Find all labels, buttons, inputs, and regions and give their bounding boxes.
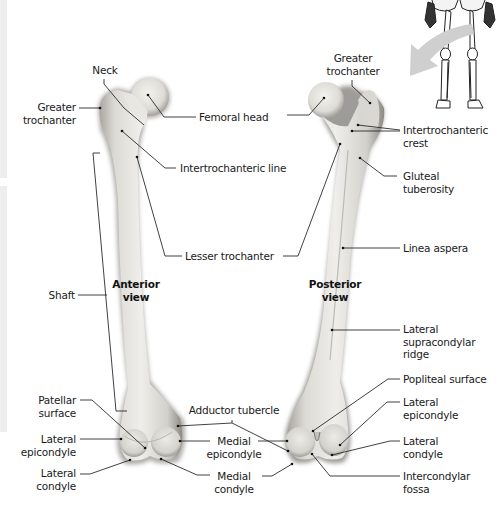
label-neck: Neck [90, 64, 120, 77]
posterior-femur [285, 82, 384, 463]
label-line: fossa [403, 483, 470, 496]
anterior-view-line1: Anterior [110, 278, 162, 291]
label-line: tuberosity [403, 183, 454, 196]
label-lateral-condyle-posterior: Lateral condyle [403, 435, 443, 460]
label-shaft: Shaft [30, 289, 75, 302]
label-line: surface [20, 407, 76, 420]
label-line: Intertrochanteric [403, 124, 488, 137]
label-line: Medial [204, 435, 264, 448]
label-lateral-epicondyle-posterior: Lateral epicondyle [403, 396, 458, 421]
label-line: condyle [208, 483, 260, 496]
label-line: epicondyle [204, 448, 264, 461]
label-line: Popliteal surface [403, 373, 487, 386]
label-line: crest [403, 137, 488, 150]
label-line: Intertrochanteric line [180, 162, 286, 175]
label-greater-trochanter-anterior: Greater trochanter [16, 101, 76, 126]
label-line: Lateral [20, 467, 76, 480]
label-line: Adductor tubercle [184, 404, 284, 417]
label-intercondylar-fossa: Intercondylar fossa [403, 470, 470, 495]
label-femoral-head: Femoral head [199, 111, 268, 124]
label-line: epicondyle [403, 409, 458, 422]
label-line: trochanter [322, 65, 384, 78]
anterior-view-line2: view [110, 291, 162, 304]
label-patellar-surface: Patellar surface [20, 394, 76, 419]
posterior-view-line1: Posterior [307, 278, 363, 291]
label-medial-condyle: Medial condyle [208, 470, 260, 495]
label-lateral-epicondyle-anterior: Lateral epicondyle [14, 433, 76, 458]
label-greater-trochanter-posterior: Greater trochanter [322, 52, 384, 77]
label-intertrochanteric-crest: Intertrochanteric crest [403, 124, 488, 149]
posterior-view-line2: view [307, 291, 363, 304]
label-linea-aspera: Linea aspera [403, 242, 468, 255]
label-lesser-trochanter: Lesser trochanter [185, 250, 274, 263]
label-line: Lesser trochanter [185, 250, 274, 263]
anterior-view-label: Anterior view [110, 278, 162, 303]
label-line: Femoral head [199, 111, 268, 124]
label-line: Intercondylar [403, 470, 470, 483]
label-lateral-supracondylar-ridge: Lateral supracondylar ridge [403, 323, 475, 361]
label-line: Shaft [30, 289, 75, 302]
label-line: Lateral [403, 396, 458, 409]
label-line: Patellar [20, 394, 76, 407]
label-lateral-condyle-anterior: Lateral condyle [20, 467, 76, 492]
label-line: trochanter [16, 114, 76, 127]
label-line: Lateral [14, 433, 76, 446]
label-line: ridge [403, 348, 475, 361]
label-line: Lateral [403, 435, 443, 448]
label-medial-epicondyle: Medial epicondyle [204, 435, 264, 460]
label-line: Lateral [403, 323, 475, 336]
label-line: Gluteal [403, 170, 454, 183]
label-line: epicondyle [14, 446, 76, 459]
label-line: Medial [208, 470, 260, 483]
label-intertrochanteric-line: Intertrochanteric line [180, 162, 286, 175]
label-line: condyle [403, 448, 443, 461]
posterior-view-label: Posterior view [307, 278, 363, 303]
label-line: supracondylar [403, 336, 475, 349]
label-line: Greater [322, 52, 384, 65]
label-line: Greater [16, 101, 76, 114]
label-neck-text: Neck [90, 64, 120, 77]
label-adductor-tubercle: Adductor tubercle [184, 404, 284, 417]
anterior-femur [98, 78, 185, 465]
label-popliteal-surface: Popliteal surface [403, 373, 487, 386]
label-line: Linea aspera [403, 242, 468, 255]
label-line: condyle [20, 480, 76, 493]
label-gluteal-tuberosity: Gluteal tuberosity [403, 170, 454, 195]
